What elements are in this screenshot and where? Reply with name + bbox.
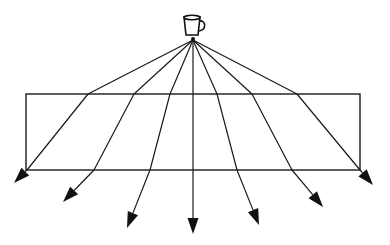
arrowhead-icon	[188, 218, 199, 234]
arrowhead-icon	[358, 169, 373, 185]
light-ray	[193, 40, 313, 195]
light-source-mug-icon	[184, 15, 205, 41]
light-ray	[25, 40, 193, 172]
arrowhead-icon	[248, 208, 259, 225]
light-ray	[74, 40, 193, 191]
arrowhead-icon	[309, 191, 323, 207]
rays-group	[14, 40, 373, 234]
light-ray	[193, 40, 253, 210]
arrowhead-icon	[127, 211, 138, 228]
light-ray	[193, 40, 363, 173]
refraction-diagram	[0, 0, 390, 245]
